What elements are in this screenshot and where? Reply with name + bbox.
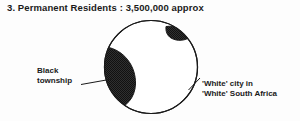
- label-white-city-line1: 'White' city in: [202, 79, 253, 88]
- label-black-township: Black township: [37, 66, 72, 85]
- permanent-residents-diagram: [0, 0, 300, 121]
- label-black-township-line1: Black: [37, 66, 58, 75]
- label-white-city-line2: 'White' South Africa: [202, 89, 277, 99]
- label-white-city: 'White' city in 'White' South Africa: [202, 79, 277, 98]
- label-black-township-line2: township: [37, 76, 72, 86]
- figure-container: 3. Permanent Residents : 3,500,000 appro…: [0, 0, 300, 121]
